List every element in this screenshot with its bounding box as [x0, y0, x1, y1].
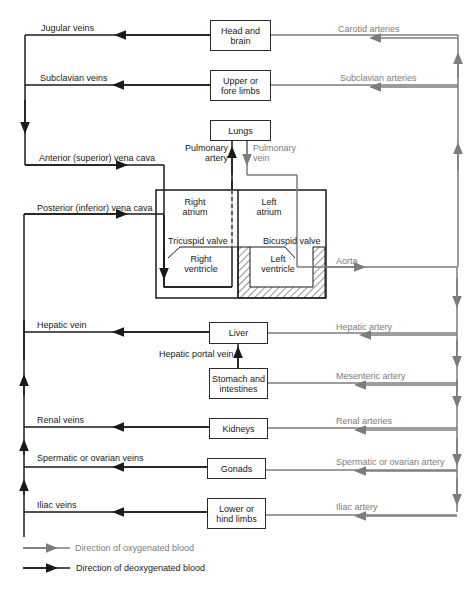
- organ-kidneys: Kidneys: [209, 418, 268, 439]
- organ-kidneys-label: Kidneys: [222, 424, 254, 434]
- organ-liver: Liver: [209, 322, 268, 344]
- spermatic-artery-label: Spermatic or ovarian artery: [336, 457, 445, 467]
- bicuspid-valve-label: Bicuspid valve: [263, 236, 321, 246]
- posterior-vena-cava-label: Posterior (inferior) vena cava: [37, 203, 153, 213]
- organ-gonads-label: Gonads: [221, 464, 253, 474]
- subclavian-arteries-label: Subclavian arteries: [340, 73, 417, 83]
- organ-head-brain-label: Head and brain: [219, 26, 263, 46]
- organ-liver-label: Liver: [229, 328, 249, 338]
- right-atrium-label: Right atrium: [178, 197, 212, 217]
- organ-lungs-label: Lungs: [228, 126, 253, 136]
- mesenteric-artery-label: Mesenteric artery: [336, 371, 406, 381]
- spermatic-veins-label: Spermatic or ovarian veins: [37, 453, 144, 463]
- pulmonary-vein-label: Pulmonary vein: [253, 143, 293, 163]
- renal-arteries-label: Renal arteries: [336, 416, 392, 426]
- pulmonary-artery-label: Pulmonary artery: [182, 143, 228, 163]
- subclavian-veins-label: Subclavian veins: [40, 73, 108, 83]
- tricuspid-valve-label: Tricuspid valve: [168, 236, 228, 246]
- organ-stomach-label: Stomach and intestines: [211, 374, 267, 394]
- organ-upper-limbs: Upper or fore limbs: [210, 70, 271, 101]
- hepatic-artery-label: Hepatic artery: [336, 322, 392, 332]
- organ-gonads: Gonads: [207, 458, 266, 479]
- iliac-artery-label: Iliac artery: [336, 502, 378, 512]
- organ-lungs: Lungs: [210, 120, 271, 141]
- jugular-veins-label: Jugular veins: [41, 23, 94, 33]
- iliac-veins-label: Iliac veins: [37, 500, 77, 510]
- right-ventricle-label: Right ventricle: [178, 254, 224, 274]
- organ-head-brain: Head and brain: [210, 20, 271, 51]
- aorta-label: Aorta: [336, 256, 358, 266]
- organ-lower-limbs-label: Lower or hind limbs: [214, 504, 260, 524]
- organ-lower-limbs: Lower or hind limbs: [207, 498, 266, 529]
- organ-upper-limbs-label: Upper or fore limbs: [216, 76, 266, 96]
- organ-stomach-intestines: Stomach and intestines: [209, 368, 268, 399]
- legend-deoxygenated-label: Direction of deoxygenated blood: [76, 563, 205, 573]
- legend-oxygenated-label: Direction of oxygenated blood: [75, 543, 194, 553]
- left-atrium-label: Left atrium: [252, 197, 286, 217]
- left-ventricle-label: Left ventricle: [255, 254, 301, 274]
- anterior-vena-cava-label: Anterior (superior) vena cava: [39, 153, 155, 163]
- renal-veins-label: Renal veins: [37, 415, 84, 425]
- hepatic-vein-label: Hepatic vein: [37, 320, 87, 330]
- hepatic-portal-vein-label: Hepatic portal vein: [159, 349, 234, 359]
- carotid-arteries-label: Carotid arteries: [338, 24, 400, 34]
